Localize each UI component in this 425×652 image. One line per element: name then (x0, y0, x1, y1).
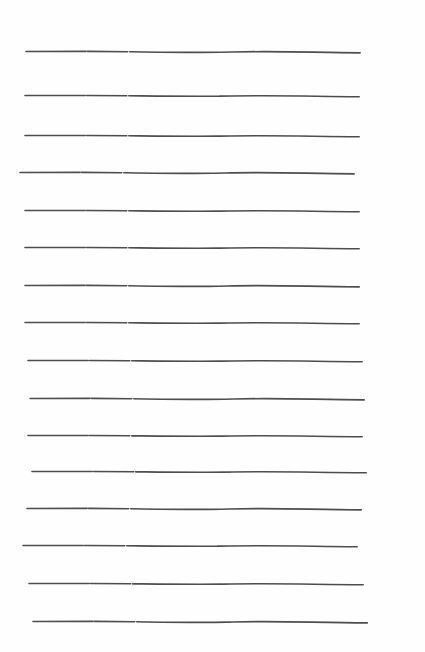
ruled-line (25, 322, 396, 323)
ruled-line (26, 51, 402, 53)
ruled-lines (0, 0, 425, 652)
ruled-line (25, 210, 397, 211)
ruled-line (27, 508, 396, 510)
ruled-line (28, 435, 397, 436)
ruled-line (23, 545, 398, 546)
ruled-line (25, 247, 398, 248)
ruled-line (25, 135, 397, 136)
ruled-line (29, 583, 397, 584)
ruled-line (25, 285, 394, 287)
ruled-line (28, 360, 399, 361)
ruled-line (32, 471, 397, 472)
ruled-line (30, 398, 400, 400)
ruled-line (33, 621, 397, 623)
ruled-line (20, 172, 394, 174)
ruled-page (0, 0, 425, 652)
ruled-line (25, 95, 401, 96)
